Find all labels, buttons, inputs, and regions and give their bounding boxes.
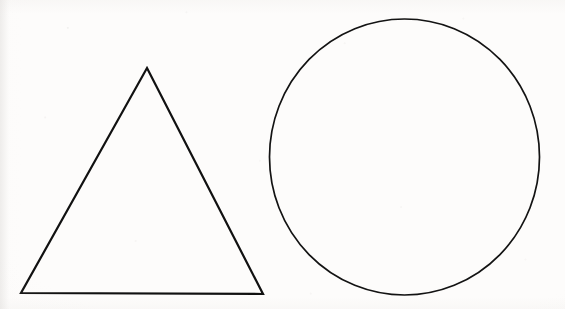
circle-shape — [270, 19, 540, 295]
drawing-canvas — [0, 0, 565, 309]
triangle-shape — [21, 68, 263, 294]
shapes-figure — [0, 0, 565, 309]
